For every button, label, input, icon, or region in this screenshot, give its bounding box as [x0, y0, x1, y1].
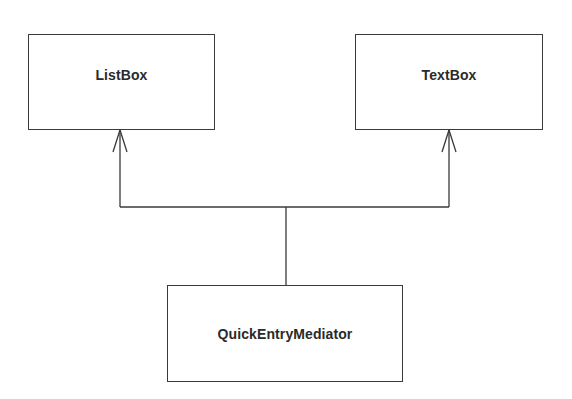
class-box-quickentrymediator: QuickEntryMediator: [167, 285, 403, 382]
class-box-listbox: ListBox: [28, 34, 215, 130]
diagram-canvas: ListBox TextBox QuickEntryMediator: [0, 0, 572, 399]
class-name-textbox: TextBox: [422, 67, 477, 83]
class-box-textbox: TextBox: [355, 34, 543, 130]
class-name-listbox: ListBox: [95, 67, 147, 83]
class-name-quickentrymediator: QuickEntryMediator: [218, 326, 353, 342]
